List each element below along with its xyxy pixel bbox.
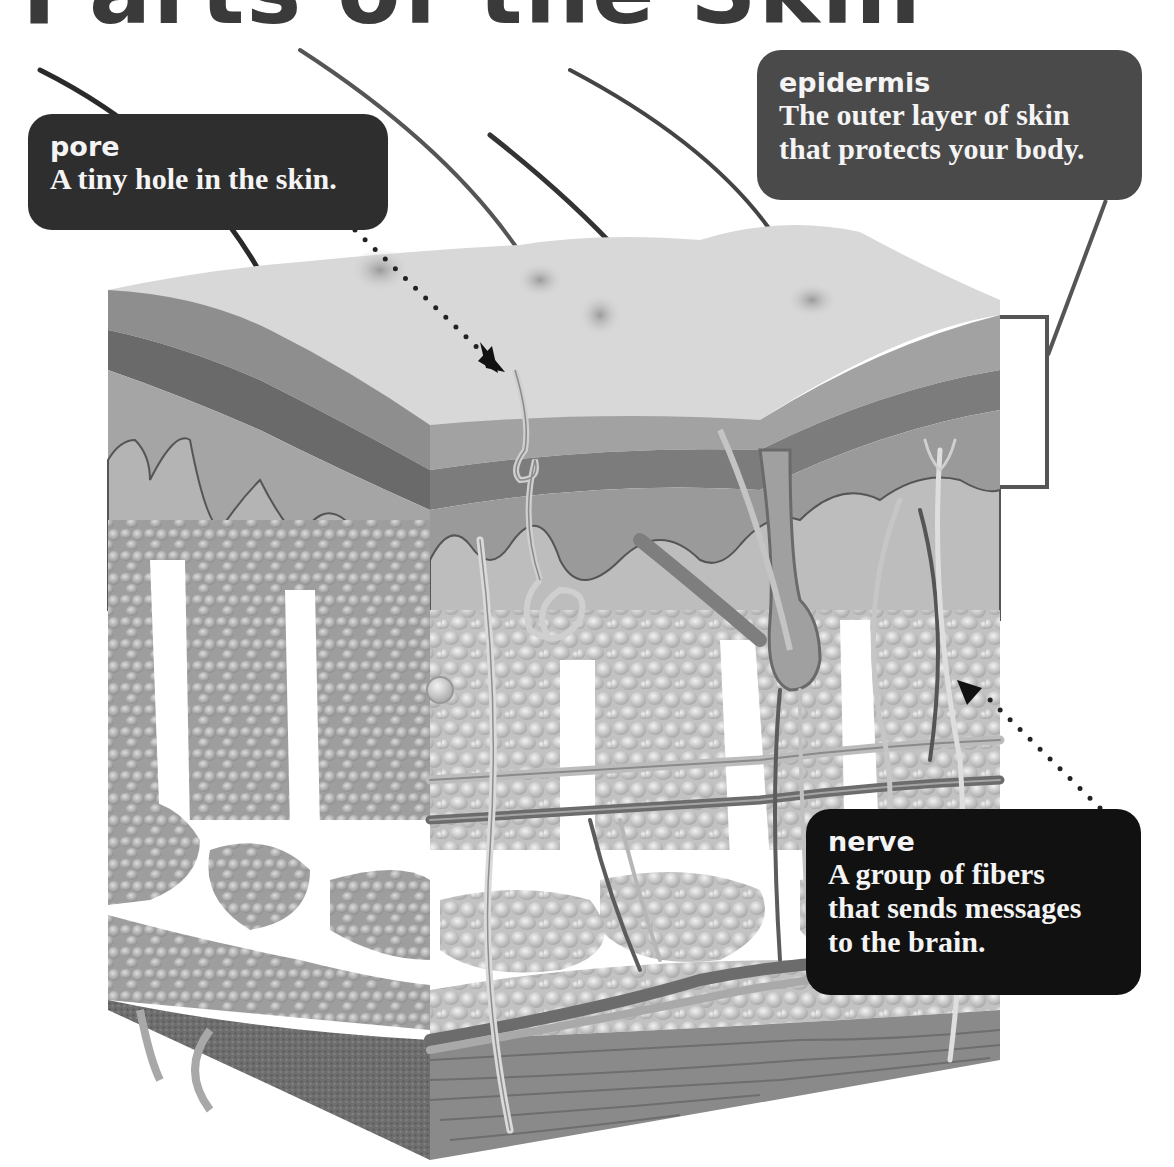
epidermis-bracket [1000, 200, 1106, 487]
callout-epidermis: epidermis The outer layer of skin that p… [757, 50, 1142, 200]
callout-term: nerve [828, 827, 1121, 857]
callout-term: pore [50, 132, 368, 162]
callout-nerve: nerve A group of fibers that sends messa… [806, 809, 1141, 995]
callout-definition-line: that protects your body. [779, 132, 1122, 166]
callout-definition-line: that sends messages [828, 891, 1121, 925]
callout-pore: pore A tiny hole in the skin. [28, 114, 388, 230]
callout-definition: A tiny hole in the skin. [50, 162, 368, 196]
callout-definition-line: to the brain. [828, 925, 1121, 959]
callout-definition-line: The outer layer of skin [779, 98, 1122, 132]
callout-term: epidermis [779, 68, 1122, 98]
callout-definition-line: A group of fibers [828, 857, 1121, 891]
